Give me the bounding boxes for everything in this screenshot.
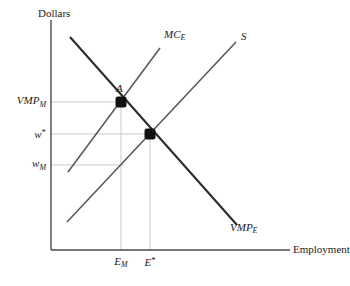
point-a-label: A <box>116 83 123 94</box>
x-tick-e-m: EM <box>114 256 127 269</box>
gridlines <box>51 100 153 250</box>
y-tick-w-m-sub: M <box>39 163 46 172</box>
y-tick-w-star-mark: * <box>42 127 46 137</box>
y-axis-title: Dollars <box>38 8 70 19</box>
x-tick-e-m-base: E <box>114 255 121 267</box>
x-tick-e-star: E* <box>144 256 155 268</box>
y-tick-vmp-m: VMPM <box>2 95 46 108</box>
y-tick-vmp-m-base: VMP <box>17 94 40 106</box>
curve-label-mc-e: MCE <box>164 29 185 42</box>
point-competitive-marker <box>145 129 156 140</box>
curve-label-vmp-e: VMPE <box>230 222 257 235</box>
x-axis-title: Employment <box>293 244 350 255</box>
y-tick-w-star-base: w <box>34 128 41 140</box>
curve-label-supply-base: S <box>241 30 247 42</box>
curve-label-vmp-e-sub: E <box>253 226 258 235</box>
x-tick-e-star-base: E <box>144 256 151 268</box>
y-tick-w-star: w* <box>2 128 46 140</box>
y-tick-w-m: wM <box>2 158 46 171</box>
curve-mc-e <box>68 48 160 172</box>
y-tick-vmp-m-sub: M <box>39 100 46 109</box>
curve-label-supply: S <box>241 31 247 42</box>
point-a-marker <box>116 97 127 108</box>
x-tick-e-m-sub: M <box>121 260 128 269</box>
curve-label-mc-e-sub: E <box>181 33 186 42</box>
x-tick-e-star-mark: * <box>151 255 155 265</box>
curve-label-vmp-e-base: VMP <box>230 221 253 233</box>
curve-label-mc-e-base: MC <box>164 28 181 40</box>
